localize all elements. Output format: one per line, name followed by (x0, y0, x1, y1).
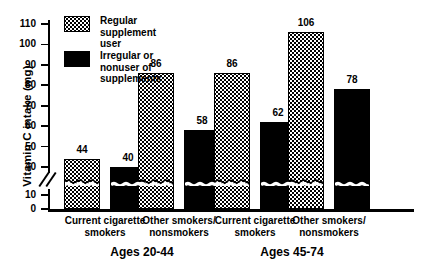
y-tick-label-80: 80 (6, 80, 36, 90)
y-tick-10 (41, 194, 48, 196)
legend-label: Regular supplement user (100, 15, 156, 50)
bar-value-label: 86 (212, 59, 252, 69)
legend-swatch-dotted (64, 16, 90, 32)
y-tick-90 (41, 64, 48, 66)
y-tick-80 (41, 84, 48, 86)
bar-axis-break-line (65, 177, 99, 186)
bar (214, 73, 250, 209)
vitamin-c-bar-chart: Vitamin C intake (mg) 010405060708090100… (0, 0, 429, 266)
bar-value-label: 44 (62, 145, 102, 155)
y-tick-label-0: 0 (6, 204, 36, 214)
y-tick-label-10: 10 (6, 190, 36, 200)
y-tick-label-60: 60 (6, 121, 36, 131)
bar-value-label: 40 (108, 153, 148, 163)
y-tick-label-40: 40 (6, 162, 36, 172)
bar-value-label: 58 (182, 116, 222, 126)
y-tick-70 (41, 105, 48, 107)
y-axis-break-marker (41, 171, 59, 191)
category-label: Other smokers/ nonsmokers (269, 215, 389, 238)
y-tick-50 (41, 146, 48, 148)
bar-value-label: 106 (286, 18, 326, 28)
bar (138, 73, 174, 209)
bar-axis-break-line (139, 177, 173, 186)
y-tick-label-110: 110 (6, 19, 36, 29)
bar-value-label: 62 (258, 108, 298, 118)
group-label: Ages 45-74 (212, 245, 372, 259)
bar-axis-break-line (335, 177, 369, 186)
legend-swatch-solid (64, 51, 90, 67)
y-tick-label-70: 70 (6, 101, 36, 111)
y-tick-60 (41, 125, 48, 127)
y-tick-110 (41, 23, 48, 25)
x-axis-line (48, 209, 414, 212)
bar-axis-break-line (289, 177, 323, 186)
bar-axis-break-line (185, 177, 219, 186)
y-tick-label-100: 100 (6, 39, 36, 49)
y-tick-0 (41, 208, 48, 210)
y-tick-label-90: 90 (6, 60, 36, 70)
bar (334, 89, 370, 209)
y-tick-40 (41, 166, 48, 168)
group-label: Ages 20-44 (62, 245, 222, 259)
y-tick-label-50: 50 (6, 142, 36, 152)
bar-axis-break-line (215, 177, 249, 186)
y-tick-100 (41, 44, 48, 46)
legend-label: Irregular or nonuser of supplements (100, 50, 162, 85)
bar-value-label: 78 (332, 75, 372, 85)
